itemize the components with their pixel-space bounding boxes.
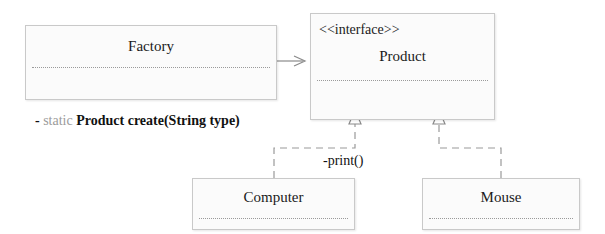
product-stereotype: <<interface>>	[319, 22, 400, 37]
mouse-name-compartment: Mouse	[423, 179, 579, 217]
factory-class-name: Factory	[26, 38, 276, 55]
product-method-print: -print()	[323, 153, 363, 168]
mouse-methods-compartment	[423, 217, 579, 229]
class-box-factory[interactable]: Factory - static Product create(String t…	[25, 25, 277, 100]
product-methods-compartment: -print()	[311, 79, 494, 119]
product-class-name: Product	[311, 48, 494, 65]
product-name-compartment: <<interface>> Product	[311, 14, 494, 79]
class-box-mouse[interactable]: Mouse	[422, 178, 580, 230]
computer-product-dashed-line	[274, 124, 355, 178]
computer-class-name: Computer	[193, 189, 354, 206]
mouse-class-name: Mouse	[423, 189, 579, 206]
factory-methods-compartment: - static Product create(String type)	[26, 66, 276, 99]
factory-method-modifier-text: static	[43, 113, 73, 128]
class-box-product[interactable]: <<interface>> Product -print()	[310, 13, 495, 120]
factory-method-create: - static Product create(String type)	[35, 113, 240, 128]
edge-factory-to-product	[277, 56, 305, 66]
factory-product-arrowhead	[294, 56, 305, 66]
factory-name-compartment: Factory	[26, 26, 276, 66]
factory-method-signature: Product create(String type)	[76, 113, 240, 128]
computer-name-compartment: Computer	[193, 179, 354, 217]
mouse-product-dashed-line	[439, 124, 501, 178]
class-box-computer[interactable]: Computer	[192, 178, 355, 230]
uml-diagram-canvas: Factory - static Product create(String t…	[0, 0, 605, 234]
edge-mouse-to-product	[433, 110, 501, 178]
computer-methods-compartment	[193, 217, 354, 229]
